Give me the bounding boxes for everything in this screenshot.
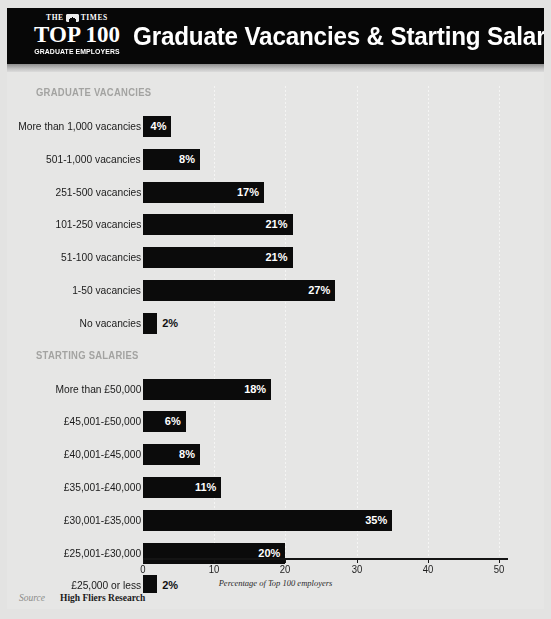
bar-row: More than 1,000 vacancies4% xyxy=(7,116,544,137)
bar-category-label: More than 1,000 vacancies xyxy=(18,116,141,137)
bar-value-label: 21% xyxy=(264,247,288,268)
x-axis-line xyxy=(143,558,508,560)
bar-value-label: 20% xyxy=(256,543,280,564)
bar-category-label: 1-50 vacancies xyxy=(72,280,141,301)
x-tick-label-20: 20 xyxy=(271,564,300,575)
bar-value-label: 8% xyxy=(171,444,195,465)
bar-row: £35,001-£40,00011% xyxy=(7,477,544,498)
bar-category-label: 101-250 vacancies xyxy=(55,214,141,235)
bar-row: 51-100 vacancies21% xyxy=(7,247,544,268)
header-shadow-strip xyxy=(7,64,544,72)
x-tick-40 xyxy=(428,558,429,563)
x-tick-label-50: 50 xyxy=(485,564,514,575)
bar xyxy=(143,510,392,531)
header-banner: THE TIMES TOP 100 GRADUATE EMPLOYERS Gra… xyxy=(7,8,544,64)
masthead-times: TIMES xyxy=(81,13,108,22)
bar-row: £25,001-£30,00020% xyxy=(7,543,544,564)
bar-value-label: 8% xyxy=(171,149,195,170)
bar-category-label: 51-100 vacancies xyxy=(61,247,141,268)
page-title: Graduate Vacancies & Starting Salaries i… xyxy=(133,22,544,51)
bar-category-label: More than £50,000 xyxy=(55,379,141,400)
x-tick-label-30: 30 xyxy=(342,564,371,575)
x-tick-0 xyxy=(143,558,144,563)
bar-value-label: 4% xyxy=(142,116,166,137)
bar-category-label: £35,001-£40,000 xyxy=(64,477,141,498)
masthead-line: THE TIMES xyxy=(29,13,125,22)
bar-category-label: £25,001-£30,000 xyxy=(64,543,141,564)
x-tick-20 xyxy=(285,558,286,563)
section-heading-0: GRADUATE VACANCIES xyxy=(36,86,151,98)
bar-row: More than £50,00018% xyxy=(7,379,544,400)
bar-value-label: 35% xyxy=(363,510,387,531)
source-name: High Fliers Research xyxy=(60,593,145,603)
bar-category-label: 251-500 vacancies xyxy=(55,182,141,203)
x-tick-10 xyxy=(214,558,215,563)
x-axis-caption: Percentage of Top 100 employers xyxy=(7,578,544,588)
plot-region: GRADUATE VACANCIESMore than 1,000 vacanc… xyxy=(7,72,544,599)
x-tick-50 xyxy=(499,558,500,563)
bar-value-label: 6% xyxy=(157,411,181,432)
bar xyxy=(143,313,157,334)
masthead-the: THE xyxy=(46,13,64,22)
bar-value-label: 11% xyxy=(192,477,216,498)
x-tick-label-40: 40 xyxy=(414,564,443,575)
bar-row: £45,001-£50,0006% xyxy=(7,411,544,432)
x-tick-label-0: 0 xyxy=(129,564,158,575)
bar-row: No vacancies2% xyxy=(7,313,544,334)
bar-row: £40,001-£45,0008% xyxy=(7,444,544,465)
bar-row: 101-250 vacancies21% xyxy=(7,214,544,235)
footer: Source High Fliers Research xyxy=(7,593,544,609)
logo-subtitle: GRADUATE EMPLOYERS xyxy=(33,47,121,57)
bar-value-label: 2% xyxy=(162,313,178,334)
bar-row: 501-1,000 vacancies8% xyxy=(7,149,544,170)
chart-area: GRADUATE VACANCIESMore than 1,000 vacanc… xyxy=(7,72,544,599)
bar-value-label: 21% xyxy=(264,214,288,235)
x-tick-label-10: 10 xyxy=(200,564,229,575)
bar-category-label: £40,001-£45,000 xyxy=(64,444,141,465)
times-crest-icon xyxy=(66,14,79,22)
bar-row: 1-50 vacancies27% xyxy=(7,280,544,301)
bar-category-label: No vacancies xyxy=(80,313,141,334)
bar-value-label: 17% xyxy=(235,182,259,203)
times-top100-logo: THE TIMES TOP 100 GRADUATE EMPLOYERS xyxy=(29,13,125,57)
bar-category-label: £45,001-£50,000 xyxy=(64,411,141,432)
logo-top100-text: TOP 100 xyxy=(29,23,125,46)
bar-row: 251-500 vacancies17% xyxy=(7,182,544,203)
bar-value-label: 18% xyxy=(242,379,266,400)
bar-category-label: £30,001-£35,000 xyxy=(64,510,141,531)
bar-value-label: 27% xyxy=(306,280,330,301)
bar-row: £30,001-£35,00035% xyxy=(7,510,544,531)
source-label: Source xyxy=(19,593,45,603)
section-heading-1: STARTING SALARIES xyxy=(36,349,139,361)
bar-category-label: 501-1,000 vacancies xyxy=(47,149,141,170)
x-tick-30 xyxy=(357,558,358,563)
infographic-page: THE TIMES TOP 100 GRADUATE EMPLOYERS Gra… xyxy=(0,0,551,619)
